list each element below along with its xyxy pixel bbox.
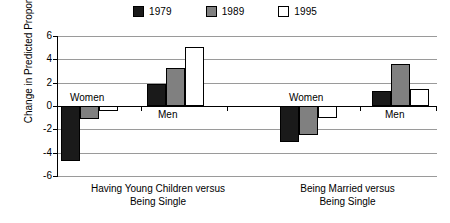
bar-1989-women-g0 xyxy=(80,106,99,119)
x-group-label-0-line2: Being Single xyxy=(58,195,258,208)
legend-label-1979: 1979 xyxy=(149,6,172,17)
legend-label-1989: 1989 xyxy=(222,6,245,17)
y-tick-label-4: 4 xyxy=(12,54,52,64)
y-tick-mark-0 xyxy=(53,106,58,107)
gridline--4 xyxy=(58,153,437,154)
x-tick-mark-4 xyxy=(436,106,437,111)
gridline--2 xyxy=(58,129,437,130)
bar-1989-women-g1 xyxy=(299,106,318,135)
x-tick-mark-3 xyxy=(360,106,361,111)
chart-figure: 1979 1989 1995 Change in Predicted Propo… xyxy=(0,0,450,223)
gridline--6 xyxy=(58,176,437,177)
series-note-g1-women: Women xyxy=(289,92,323,103)
series-note-g0-men: Men xyxy=(158,109,177,120)
bar-1995-men-g1 xyxy=(410,89,429,106)
y-tick-label--6: -6 xyxy=(12,171,52,181)
y-tick-mark-4 xyxy=(53,59,58,60)
x-group-label-1-line2: Being Single xyxy=(255,195,440,208)
y-tick-mark--4 xyxy=(53,153,58,154)
legend-item-1989: 1989 xyxy=(206,6,245,17)
series-note-g1-men: Men xyxy=(385,109,404,120)
y-tick-label-2: 2 xyxy=(12,78,52,88)
bar-1995-women-g1 xyxy=(318,106,337,118)
y-tick-label--2: -2 xyxy=(12,124,52,134)
y-tick-label--4: -4 xyxy=(12,148,52,158)
legend-swatch-1989 xyxy=(206,6,217,17)
y-tick-mark-2 xyxy=(53,83,58,84)
bar-1979-men-g1 xyxy=(372,91,391,106)
x-group-label-1-line1: Being Married versus xyxy=(300,183,394,194)
bar-1979-women-g0 xyxy=(61,106,80,161)
y-tick-label-6: 6 xyxy=(12,31,52,41)
gridline-6 xyxy=(58,36,437,37)
x-tick-mark-0 xyxy=(141,106,142,111)
legend-swatch-1995 xyxy=(278,6,289,17)
legend-swatch-1979 xyxy=(133,6,144,17)
chart-legend: 1979 1989 1995 xyxy=(0,6,450,17)
x-group-label-0-line1: Having Young Children versus xyxy=(91,183,225,194)
y-tick-label-0: 0 xyxy=(12,101,52,111)
bar-1979-women-g1 xyxy=(280,106,299,142)
series-note-g0-women: Women xyxy=(70,92,104,103)
plot-area: 6420-2-4-6 WomenMenWomenMen xyxy=(58,36,437,176)
legend-item-1995: 1995 xyxy=(278,6,317,17)
bar-1989-men-g0 xyxy=(166,68,185,106)
legend-item-1979: 1979 xyxy=(133,6,172,17)
gridline-2 xyxy=(58,83,437,84)
bar-1989-men-g1 xyxy=(391,64,410,106)
y-axis-title: Change in Predicted Proportion xyxy=(23,0,34,144)
bar-1979-men-g0 xyxy=(147,84,166,106)
y-tick-mark--2 xyxy=(53,129,58,130)
y-tick-mark-6 xyxy=(53,36,58,37)
gridline-4 xyxy=(58,59,437,60)
y-tick-mark--6 xyxy=(53,176,58,177)
x-group-label-1: Being Married versus Being Single xyxy=(255,182,440,208)
x-group-label-0: Having Young Children versus Being Singl… xyxy=(58,182,258,208)
bar-1995-men-g0 xyxy=(185,47,204,107)
bar-1995-women-g0 xyxy=(99,106,118,111)
x-tick-mark-1 xyxy=(227,106,228,111)
legend-label-1995: 1995 xyxy=(294,6,317,17)
